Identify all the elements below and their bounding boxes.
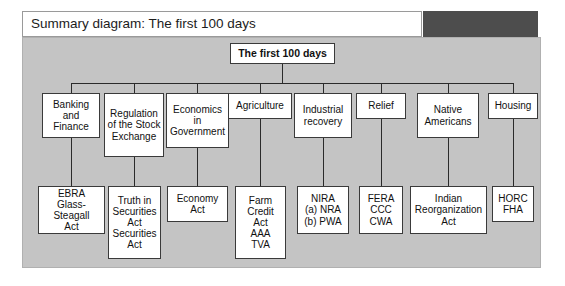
connector-link-8 [513, 119, 514, 186]
topic-box-agriculture: Agriculture [228, 93, 292, 119]
page-title: Summary diagram: The first 100 days [23, 17, 256, 31]
detail-box-relief: FERA CCC CWA [359, 186, 403, 234]
topic-box-native-americans: Native Americans [417, 93, 479, 138]
connector-drop-7 [448, 83, 449, 93]
connector-link-2 [134, 157, 135, 186]
connector-drop-1 [71, 83, 72, 93]
topic-box-economics-in-government: Economics in Government [166, 93, 229, 148]
topic-box-housing: Housing [488, 93, 538, 119]
title-plate: Summary diagram: The first 100 days [22, 11, 422, 37]
connector-bus [71, 83, 513, 84]
connector-link-7 [448, 138, 449, 186]
connector-link-5 [323, 138, 324, 186]
diagram-panel: The first 100 days Banking and Finance R… [22, 37, 541, 268]
detail-box-native-americans: Indian Reorganization Act [410, 186, 487, 234]
connector-drop-8 [513, 83, 514, 93]
connector-drop-6 [381, 83, 382, 93]
connector-root-stem [282, 64, 283, 83]
connector-drop-5 [323, 83, 324, 93]
header-dark-block [423, 11, 538, 37]
header: Summary diagram: The first 100 days [22, 11, 538, 37]
connector-link-6 [381, 119, 382, 186]
diagram-page: Summary diagram: The first 100 days The … [0, 0, 565, 286]
connector-drop-2 [134, 83, 135, 93]
connector-link-3 [197, 148, 198, 186]
detail-box-economics-in-government: Economy Act [167, 186, 228, 222]
detail-box-banking-and-finance: EBRA Glass-Steagall Act [38, 186, 105, 234]
topic-box-relief: Relief [356, 93, 406, 119]
topic-box-industrial-recovery: Industrial recovery [294, 93, 352, 138]
connector-link-1 [71, 138, 72, 186]
detail-box-industrial-recovery: NIRA (a) NRA (b) PWA [297, 186, 349, 234]
root-node: The first 100 days [230, 43, 335, 64]
connector-link-4 [260, 119, 261, 186]
connector-drop-4 [260, 83, 261, 93]
topic-box-banking-and-finance: Banking and Finance [42, 93, 100, 138]
detail-box-agriculture: Farm Credit Act AAA TVA [235, 186, 286, 259]
detail-box-regulation-of-the-stock-exchange: Truth in Securities Act Securities Act [108, 186, 161, 259]
topic-box-regulation-of-the-stock-exchange: Regulation of the Stock Exchange [104, 93, 164, 157]
detail-box-housing: HORC FHA [492, 186, 534, 222]
connector-drop-3 [197, 83, 198, 93]
